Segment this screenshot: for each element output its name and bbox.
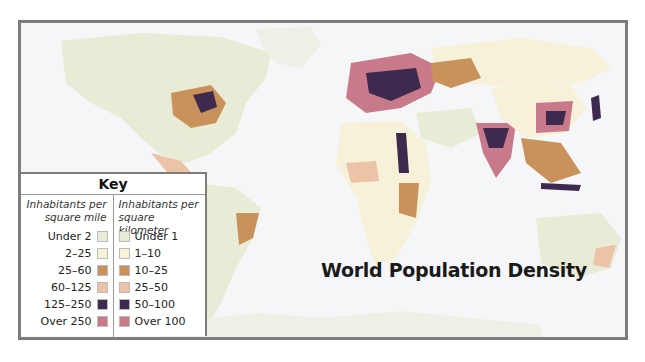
region-se-asia	[521, 138, 581, 183]
swatch-0	[119, 231, 130, 242]
key-row: 50–100	[114, 296, 206, 313]
key-header-square-mile: Inhabitants per square mile	[21, 198, 113, 228]
swatch-2	[97, 265, 108, 276]
swatch-4	[119, 299, 130, 310]
key-row: 10–25	[114, 262, 206, 279]
region-japan	[591, 95, 601, 121]
region-middle-east	[416, 108, 481, 148]
key-row: 2–25	[21, 245, 113, 262]
key-row: 1–10	[114, 245, 206, 262]
swatch-5	[97, 316, 108, 327]
key-column-square-km: Inhabitants per square kilometer Under 1…	[114, 195, 206, 338]
map-key: Key Inhabitants per square mile Under 2 …	[21, 172, 207, 336]
key-row: Over 100	[114, 313, 206, 330]
key-row: 25–60	[21, 262, 113, 279]
swatch-4	[97, 299, 108, 310]
swatch-1	[97, 248, 108, 259]
region-china-dense	[546, 111, 566, 125]
region-antarctica	[161, 311, 541, 337]
key-row: 25–50	[114, 279, 206, 296]
swatch-3	[97, 282, 108, 293]
map-frame: World Population Density Key Inhabitants…	[18, 20, 628, 340]
region-north-america	[61, 33, 271, 163]
key-row: Over 250	[21, 313, 113, 330]
region-west-africa	[346, 161, 379, 183]
swatch-1	[119, 248, 130, 259]
swatch-3	[119, 282, 130, 293]
map-title: World Population Density	[321, 259, 587, 281]
swatch-0	[97, 231, 108, 242]
region-java	[541, 183, 581, 191]
key-column-square-mile: Inhabitants per square mile Under 2 2–25…	[21, 195, 114, 338]
key-header-square-km: Inhabitants per square kilometer	[114, 198, 206, 228]
swatch-5	[119, 316, 130, 327]
key-row: 125–250	[21, 296, 113, 313]
swatch-2	[119, 265, 130, 276]
region-brazil-coast	[236, 213, 259, 245]
key-row: Under 2	[21, 228, 113, 245]
key-title: Key	[21, 174, 205, 195]
key-row: Under 1	[114, 228, 206, 245]
key-row: 60–125	[21, 279, 113, 296]
region-east-africa	[399, 183, 419, 218]
